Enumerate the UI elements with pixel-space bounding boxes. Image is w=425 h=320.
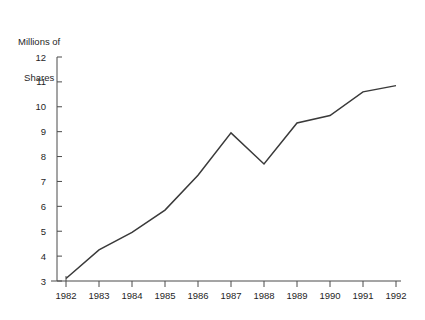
y-axis-tick-label: 11 [36, 76, 46, 87]
x-axis-tick-group: 1982198319841985198619871988198919901991… [55, 276, 406, 301]
y-axis-tick-label: 10 [35, 101, 46, 112]
data-series-line [66, 86, 396, 279]
x-axis-tick-label: 1984 [121, 290, 142, 301]
x-axis-tick-label: 1990 [319, 290, 340, 301]
x-axis-tick-label: 1982 [55, 290, 76, 301]
x-axis-tick-label: 1991 [352, 290, 373, 301]
chart-container: Millions of Shares 3456789101112 1982198… [0, 0, 425, 320]
y-axis-tick-label: 12 [35, 52, 46, 63]
y-axis-tick-label: 6 [41, 201, 46, 212]
x-axis-tick-label: 1992 [385, 290, 406, 301]
x-axis-tick-label: 1983 [88, 290, 109, 301]
x-axis-tick-label: 1988 [253, 290, 274, 301]
y-axis-tick-label: 5 [41, 226, 46, 237]
x-axis-tick-label: 1989 [286, 290, 307, 301]
y-axis-tick-label: 8 [41, 151, 46, 162]
y-axis-tick-group: 3456789101112 [35, 52, 62, 287]
y-axis-tick-label: 9 [41, 126, 46, 137]
y-axis-tick-label: 7 [41, 176, 46, 187]
y-axis-tick-label: 3 [41, 276, 46, 287]
line-chart-plot: 3456789101112 19821983198419851986198719… [0, 0, 425, 320]
x-axis-tick-label: 1986 [187, 290, 208, 301]
x-axis-tick-label: 1985 [154, 290, 175, 301]
x-axis-tick-label: 1987 [220, 290, 241, 301]
y-axis-tick-label: 4 [41, 251, 46, 262]
